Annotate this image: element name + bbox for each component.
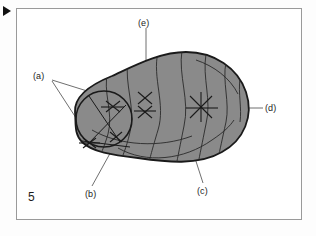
play-triangle-icon[interactable]: [3, 6, 11, 16]
callout-label-c: (c): [197, 187, 208, 196]
figure-number: 5: [28, 190, 35, 204]
callout-label-d: (d): [265, 104, 276, 113]
figure-frame: [16, 8, 302, 220]
callout-label-b: (b): [85, 190, 96, 199]
figure-canvas: (a) (b) (c) (d) (e) 5: [0, 0, 316, 236]
callout-label-a: (a): [33, 72, 44, 81]
callout-label-e: (e): [138, 19, 149, 28]
